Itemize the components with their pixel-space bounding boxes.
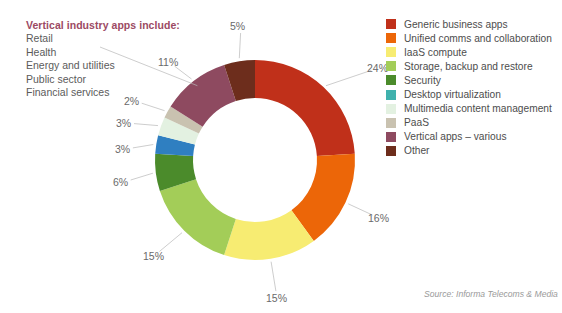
source-note: Source: Informa Telecoms & Media — [424, 289, 558, 299]
legend-swatch-icon — [386, 132, 396, 142]
legend-item-label: Vertical apps – various — [404, 131, 507, 142]
legend-item[interactable]: PaaS — [386, 116, 558, 130]
percentage-label: 6% — [113, 176, 128, 188]
leader-line — [239, 33, 240, 58]
legend-swatch-icon — [386, 33, 396, 43]
legend-swatch-icon — [386, 61, 396, 71]
annotation-leader-line — [100, 47, 197, 86]
donut-slice-group — [155, 60, 355, 260]
legend-item[interactable]: Multimedia content management — [386, 102, 558, 116]
percentage-label: 11% — [158, 56, 178, 68]
legend-item[interactable]: Vertical apps – various — [386, 130, 558, 144]
leader-line — [175, 66, 192, 79]
legend-swatch-icon — [386, 19, 396, 29]
legend-item[interactable]: IaaS compute — [386, 45, 558, 59]
percentage-label: 15% — [143, 250, 164, 262]
percentage-label: 2% — [124, 95, 139, 107]
legend-item[interactable]: Security — [386, 73, 558, 87]
legend-item-label: Security — [404, 75, 441, 86]
leader-line — [271, 262, 276, 291]
leader-line — [142, 103, 165, 111]
legend-item[interactable]: Desktop virtualization — [386, 87, 558, 101]
leader-line — [159, 233, 182, 252]
legend-item-label: Other — [404, 145, 429, 156]
legend-swatch-icon — [386, 47, 396, 57]
percentage-label: 5% — [230, 20, 245, 32]
legend-item-label: PaaS — [404, 117, 429, 128]
chart-page: Vertical industry apps include: Retail H… — [0, 0, 562, 313]
legend-swatch-icon — [386, 75, 396, 85]
leader-line — [134, 124, 158, 126]
chart-legend: Generic business appsUnified comms and c… — [386, 17, 558, 158]
legend-item[interactable]: Storage, backup and restore — [386, 59, 558, 73]
percentage-label: 3% — [115, 143, 130, 155]
legend-item-label: Multimedia content management — [404, 103, 552, 114]
percentage-label: 3% — [116, 117, 131, 129]
percentage-label: 24% — [367, 62, 388, 74]
legend-item-label: Unified comms and collaboration — [404, 33, 552, 44]
donut-slice[interactable] — [255, 60, 355, 156]
legend-swatch-icon — [386, 146, 396, 156]
legend-item-label: Storage, backup and restore — [404, 61, 533, 72]
percentage-label: 15% — [266, 292, 287, 304]
legend-swatch-icon — [386, 118, 396, 128]
legend-item-label: IaaS compute — [404, 47, 467, 58]
legend-item-label: Generic business apps — [404, 19, 508, 30]
legend-item[interactable]: Other — [386, 144, 558, 158]
legend-item-label: Desktop virtualization — [404, 89, 501, 100]
leader-line — [326, 70, 371, 85]
leader-line — [133, 145, 153, 148]
percentage-label: 16% — [368, 212, 389, 224]
legend-swatch-icon — [386, 104, 396, 114]
legend-item[interactable]: Unified comms and collaboration — [386, 31, 558, 45]
legend-item[interactable]: Generic business apps — [386, 17, 558, 31]
legend-swatch-icon — [386, 90, 396, 100]
donut-slice[interactable] — [160, 179, 236, 255]
leader-line — [131, 173, 153, 180]
